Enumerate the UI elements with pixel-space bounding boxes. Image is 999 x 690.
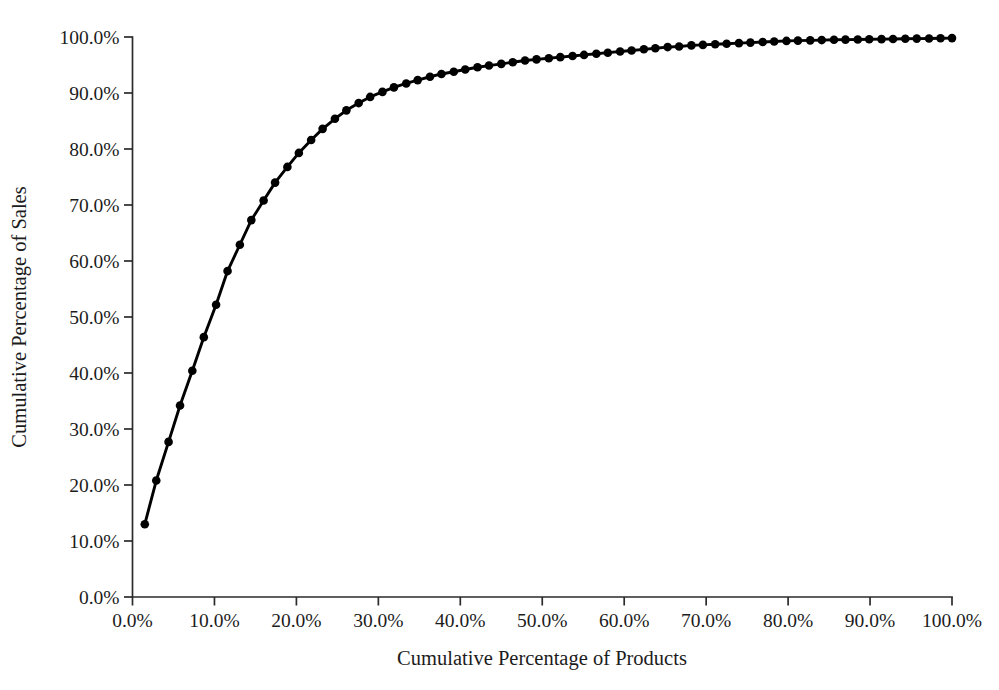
- data-point-marker: [877, 35, 886, 44]
- data-point-marker: [485, 61, 494, 70]
- x-tick-label: 50.0%: [517, 610, 567, 631]
- x-tick-label: 0.0%: [112, 610, 153, 631]
- data-point-marker: [699, 41, 708, 50]
- data-point-marker: [604, 48, 613, 57]
- data-point-marker: [188, 366, 197, 375]
- data-point-marker: [307, 136, 316, 145]
- data-point-marker: [817, 36, 826, 45]
- x-tick-group: 0.0%10.0%20.0%30.0%40.0%50.0%60.0%70.0%8…: [112, 597, 982, 631]
- data-point-marker: [532, 55, 541, 64]
- y-tick-label: 10.0%: [69, 531, 119, 552]
- data-point-marker: [473, 63, 482, 72]
- data-point-marker: [318, 125, 327, 134]
- data-point-marker: [687, 41, 696, 50]
- data-point-marker: [413, 76, 422, 85]
- data-point-marker: [402, 79, 411, 88]
- x-axis-title: Cumulative Percentage of Products: [397, 647, 687, 670]
- data-point-marker: [568, 52, 577, 61]
- data-point-marker: [901, 34, 910, 43]
- data-point-marker: [640, 45, 649, 54]
- y-tick-label: 50.0%: [69, 307, 119, 328]
- y-tick-label: 20.0%: [69, 475, 119, 496]
- data-point-marker: [770, 37, 779, 46]
- data-point-marker: [925, 34, 934, 43]
- data-point-marker: [711, 40, 720, 49]
- data-point-marker: [152, 476, 161, 485]
- y-tick-label: 80.0%: [69, 139, 119, 160]
- data-point-marker: [508, 58, 517, 67]
- x-tick-label: 60.0%: [599, 610, 649, 631]
- data-point-marker: [271, 178, 280, 187]
- data-point-marker: [212, 300, 221, 309]
- y-tick-group: 0.0%10.0%20.0%30.0%40.0%50.0%60.0%70.0%8…: [59, 27, 132, 608]
- data-point-marker: [497, 60, 506, 69]
- data-point-marker: [948, 34, 957, 43]
- y-tick-label: 0.0%: [79, 587, 120, 608]
- x-tick-label: 90.0%: [845, 610, 895, 631]
- y-tick-label: 90.0%: [69, 83, 119, 104]
- x-tick-label: 20.0%: [271, 610, 321, 631]
- data-point-marker: [580, 51, 589, 60]
- data-point-marker: [746, 38, 755, 47]
- data-point-marker: [616, 47, 625, 56]
- data-point-marker: [247, 216, 256, 225]
- data-point-marker: [390, 83, 399, 92]
- data-point-marker: [354, 99, 363, 108]
- data-point-marker: [295, 149, 304, 158]
- data-point-marker: [331, 114, 340, 123]
- data-point-marker: [936, 34, 945, 43]
- y-tick-label: 60.0%: [69, 251, 119, 272]
- data-point-marker: [841, 35, 850, 44]
- x-tick-label: 10.0%: [189, 610, 239, 631]
- data-point-marker: [758, 38, 767, 47]
- data-series-group: [140, 34, 956, 529]
- data-point-marker: [675, 42, 684, 51]
- axis-group: [133, 37, 953, 597]
- pareto-chart: 0.0%10.0%20.0%30.0%40.0%50.0%60.0%70.0%8…: [0, 0, 999, 690]
- data-point-marker: [830, 36, 839, 45]
- x-tick-label: 30.0%: [353, 610, 403, 631]
- axis-spine: [133, 37, 953, 597]
- data-point-marker: [545, 54, 554, 63]
- chart-canvas: 0.0%10.0%20.0%30.0%40.0%50.0%60.0%70.0%8…: [0, 0, 999, 690]
- data-point-marker: [449, 67, 458, 76]
- x-tick-label: 80.0%: [763, 610, 813, 631]
- x-tick-label: 70.0%: [681, 610, 731, 631]
- x-tick-label: 100.0%: [922, 610, 982, 631]
- data-point-marker: [663, 43, 672, 52]
- x-tick-label: 40.0%: [435, 610, 485, 631]
- y-axis-title: Cumulative Percentage of Sales: [8, 186, 31, 447]
- data-point-marker: [521, 56, 530, 65]
- data-point-marker: [806, 36, 815, 45]
- series-line: [145, 38, 952, 524]
- y-tick-label: 40.0%: [69, 363, 119, 384]
- data-point-marker: [592, 50, 601, 59]
- data-point-marker: [223, 267, 232, 276]
- data-point-marker: [627, 46, 636, 55]
- data-point-marker: [176, 401, 185, 410]
- data-point-marker: [437, 70, 446, 79]
- data-point-marker: [722, 39, 731, 48]
- data-point-marker: [461, 65, 470, 74]
- data-point-marker: [794, 36, 803, 45]
- data-point-marker: [853, 35, 862, 44]
- data-point-marker: [342, 106, 351, 115]
- data-point-marker: [366, 93, 375, 102]
- data-point-marker: [912, 34, 921, 43]
- data-point-marker: [259, 196, 268, 205]
- data-point-marker: [236, 240, 245, 249]
- data-point-marker: [735, 39, 744, 48]
- y-tick-label: 100.0%: [59, 27, 119, 48]
- data-point-marker: [200, 333, 209, 342]
- data-point-marker: [378, 88, 387, 97]
- data-point-marker: [556, 53, 565, 62]
- data-point-marker: [426, 72, 435, 81]
- data-point-marker: [651, 44, 660, 53]
- data-point-marker: [164, 438, 173, 447]
- data-point-marker: [140, 520, 149, 529]
- y-tick-label: 70.0%: [69, 195, 119, 216]
- data-point-marker: [865, 35, 874, 44]
- data-point-marker: [283, 163, 292, 172]
- data-point-marker: [889, 35, 898, 44]
- y-tick-label: 30.0%: [69, 419, 119, 440]
